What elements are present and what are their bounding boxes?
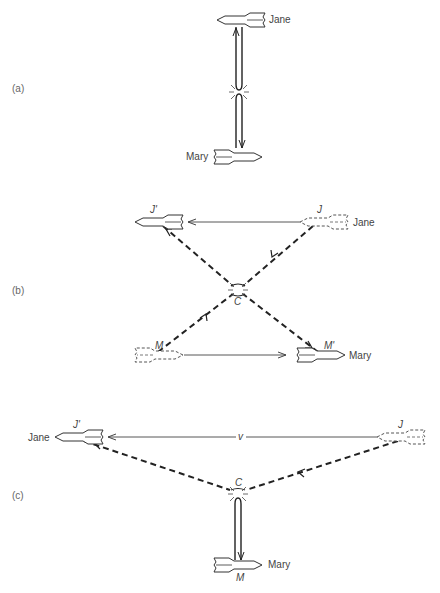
- panel-label-c: (c): [12, 490, 24, 501]
- label-mary-a: Mary: [186, 151, 208, 162]
- dashed-path-m-c: [158, 294, 233, 352]
- panel-c: (c) v C J' Jane J Mary M: [12, 419, 425, 583]
- rocket-jane-a: [217, 13, 265, 27]
- label-jprime-c: J': [72, 419, 81, 430]
- dashed-path-j-c: [243, 226, 313, 286]
- label-jane-c: Jane: [28, 432, 50, 443]
- panel-b: (b) C J' J Jane M: [12, 204, 375, 362]
- panel-label-a: (a): [12, 83, 24, 94]
- dashed-path-jprime-c: [84, 441, 230, 490]
- label-jane-b: Jane: [353, 217, 375, 228]
- relativity-diagram: (a) Jane Mary (b): [0, 0, 440, 593]
- signal-path-a: [233, 27, 245, 148]
- dashed-path-j-c: [246, 441, 398, 490]
- label-m-b: M: [155, 340, 164, 351]
- panel-label-b: (b): [12, 285, 24, 296]
- rocket-mprime-b: [297, 348, 345, 362]
- dashed-path-jprime-c: [163, 226, 233, 286]
- label-velocity-c: v: [238, 431, 244, 442]
- rocket-j-b: [300, 215, 348, 229]
- rocket-mary-a: [214, 150, 262, 164]
- label-mary-c: Mary: [268, 559, 290, 570]
- label-jprime-b: J': [149, 204, 158, 215]
- label-m-c: M: [236, 572, 245, 583]
- label-mary-b: Mary: [349, 350, 371, 361]
- flash-icon: [229, 85, 249, 99]
- label-event-c-b: C: [234, 296, 242, 307]
- label-jane-a: Jane: [269, 14, 291, 25]
- label-event-c-c: C: [235, 477, 243, 488]
- label-j-b: J: [316, 204, 323, 215]
- arrow-icon: [271, 250, 278, 257]
- rocket-jprime-c: [55, 430, 103, 444]
- label-mprime-b: M': [324, 340, 335, 351]
- dashed-path-mprime-c: [243, 294, 318, 352]
- rocket-j-c: [377, 430, 425, 444]
- label-j-c: J: [397, 419, 404, 430]
- signal-path-c: [235, 498, 241, 560]
- rocket-mary-c: [214, 558, 262, 572]
- rocket-jprime-b: [135, 215, 183, 229]
- panel-a: (a) Jane Mary: [12, 13, 291, 164]
